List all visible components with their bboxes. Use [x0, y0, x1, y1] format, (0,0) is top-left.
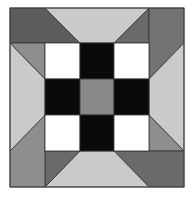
inner-top-black: [80, 43, 114, 79]
inner-bottom-left-white: [45, 115, 80, 151]
inner-top-left-white: [45, 43, 80, 79]
inner-right-black: [114, 79, 149, 115]
inner-center-gray: [80, 79, 114, 115]
inner-top-right-white: [114, 43, 149, 79]
inner-bottom-right-white: [114, 115, 149, 151]
inner-left-black: [45, 79, 80, 115]
inner-bottom-black: [80, 115, 114, 151]
quilt-block: [0, 0, 195, 197]
